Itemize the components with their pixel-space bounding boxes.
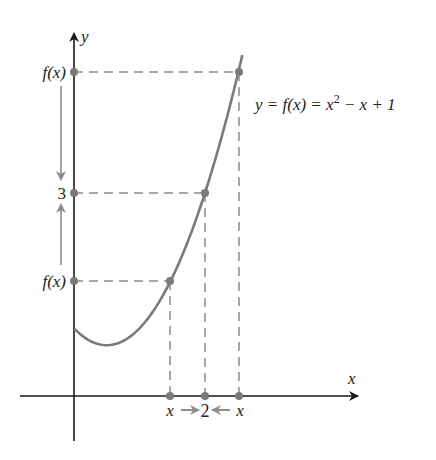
y-label-3: 3 [58,184,67,203]
point-y-3 [70,189,78,197]
equation-label: y = f(x) = x2 − x + 1 [253,92,396,114]
equation-lhs: y = f(x) = x [253,95,334,114]
point-x-right [235,392,243,400]
point-y-top [70,68,78,76]
point-x-2 [201,392,209,400]
x-label-right: x [235,401,244,420]
point-curve-limit [201,189,209,197]
equation-rhs: − x + 1 [340,95,396,114]
x-label-left: x [165,401,174,420]
point-x-left [166,392,174,400]
y-label-top: f(x) [42,63,66,82]
point-curve-left [166,277,174,285]
point-y-bottom [70,277,78,285]
point-curve-right [235,68,243,76]
limit-diagram: y x f(x) 3 f(x) x 2 x y = f(x) = x2 − x … [0,0,436,460]
dashed-guides [74,72,239,396]
y-axis-label: y [79,27,89,46]
x-axis-label: x [347,369,356,388]
points [70,68,243,400]
y-label-bottom: f(x) [42,272,66,291]
x-label-2: 2 [201,401,210,421]
parabola-curve [74,55,242,345]
